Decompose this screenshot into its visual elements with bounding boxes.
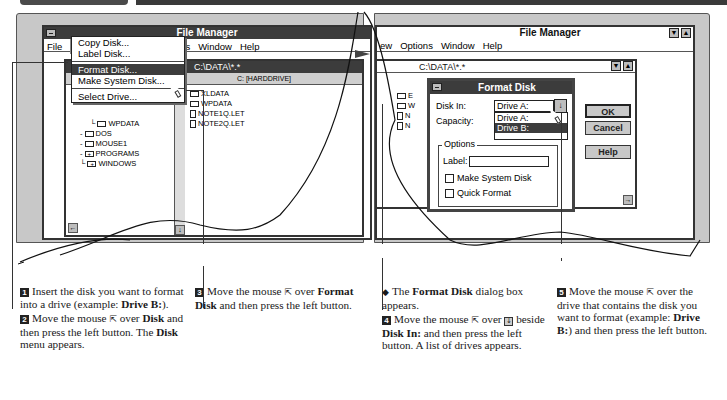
menu-item-select-drive[interactable]: Select Drive... [72, 91, 184, 102]
pointer-icon: ⇱ [646, 287, 654, 297]
disk-in-select[interactable]: Drive A: [494, 100, 554, 112]
menu-separator [72, 61, 184, 62]
tree-item[interactable]: - PROGRAMS [80, 149, 139, 159]
tree-item[interactable]: └ WINDOWS [80, 159, 139, 169]
pointer-icon: ⇱ [109, 314, 117, 324]
minimize-button[interactable]: ▼ [611, 61, 621, 71]
caption-note-step-4: ◆The Format Disk dialog box appears. 4Mo… [382, 285, 552, 354]
maximize-button[interactable]: ▲ [623, 61, 633, 71]
down-arrow-icon: ↓ [559, 101, 563, 110]
folder-plus-icon [85, 151, 94, 157]
step-1-text: 1Insert the disk you want to format into… [20, 285, 185, 310]
system-menu-icon[interactable] [46, 29, 56, 37]
directory-title: C:\DATA\*.* [194, 62, 240, 72]
format-disk-dialog: Format Disk Disk In: Capacity: Drive A: … [427, 78, 575, 212]
options-group: Options Label: Make System Disk Quick Fo… [438, 145, 558, 207]
page-mask [17, 244, 357, 266]
file-item[interactable]: NOTE1Q.LET [190, 109, 245, 119]
menubar: ewOptionsWindowHelp [377, 39, 693, 52]
menu-window[interactable]: Window [198, 40, 232, 53]
caption-step-5: 5Move the mouse ⇱ over the drive that co… [557, 285, 717, 338]
menu-help[interactable]: Help [483, 39, 503, 52]
cancel-button[interactable]: Cancel [585, 121, 631, 135]
file-item[interactable]: N [397, 111, 415, 121]
arrow-right-icon [355, 50, 370, 58]
folder-icon [397, 93, 406, 99]
label-field-label: Label: [443, 156, 468, 166]
folder-icon [85, 141, 94, 147]
header-tab [20, 0, 128, 5]
disk-in-label: Disk In: [436, 101, 466, 111]
help-button[interactable]: Help [585, 145, 631, 159]
folder-icon [190, 91, 199, 97]
maximize-button[interactable]: ▲ [681, 28, 691, 38]
document-icon [190, 120, 196, 128]
dialog-titlebar: Format Disk [430, 81, 572, 94]
file-manager-titlebar: File Manager ▼ ▲ [377, 27, 693, 39]
drive-option-b[interactable]: Drive B: [495, 123, 567, 133]
minimize-button[interactable]: ▼ [669, 28, 679, 38]
menu-item-copy-disk[interactable]: Copy Disk... [72, 37, 184, 48]
scroll-right-button[interactable]: → [623, 195, 633, 205]
menu-window[interactable]: Window [441, 39, 475, 52]
step-2-text: 2Move the mouse ⇱ over Disk and then pre… [20, 312, 185, 351]
quick-format-checkbox[interactable]: Quick Format [445, 188, 511, 198]
disk-menu: Copy Disk... Label Disk... Format Disk..… [71, 36, 185, 103]
folder-icon [190, 101, 199, 107]
file-item[interactable]: NOTE2Q.LET [190, 119, 245, 129]
folder-icon [397, 103, 406, 109]
page-mask [374, 244, 710, 258]
down-arrow-button-icon: ↓ [504, 317, 513, 326]
pointer-icon: ⇱ [284, 287, 292, 297]
window-title: File Manager [519, 27, 580, 38]
file-list: XLDATA WPDATA NOTE1Q.LET NOTE2Q.LET [190, 89, 245, 129]
tree-item[interactable]: └ WPDATA [80, 119, 139, 129]
window-title: File Manager [176, 27, 237, 38]
step-4-text: 4Move the mouse ⇱ over ↓ beside Disk In:… [382, 313, 552, 352]
checkbox-icon [445, 189, 454, 198]
scroll-left-button[interactable]: ← [68, 223, 78, 233]
caption-step-3: 3Move the mouse ⇱ over Format Disk and t… [195, 285, 355, 313]
scroll-down-button[interactable]: ↓ [175, 225, 185, 235]
tree-item[interactable]: - DOS [80, 129, 139, 139]
system-menu-icon[interactable] [432, 83, 442, 91]
note-text: ◆The Format Disk dialog box appears. [382, 285, 552, 311]
menu-file[interactable]: File [47, 40, 62, 53]
callout-line [382, 104, 383, 310]
drive-label[interactable]: C: [HARDDRIVE] [237, 75, 291, 82]
tree-scrollbar[interactable]: ↓ [174, 85, 185, 235]
document-icon [397, 122, 403, 130]
file-item[interactable]: WPDATA [190, 99, 245, 109]
document-icon [190, 110, 196, 118]
document-icon [397, 112, 403, 120]
checkbox-icon [445, 174, 454, 183]
folder-icon [97, 121, 106, 127]
header-band [136, 0, 727, 5]
menu-options[interactable]: Options [400, 39, 433, 52]
dialog-title: Format Disk [478, 82, 536, 93]
directory-titlebar: C:\DATA\*.* ▼ ▲ [375, 61, 635, 73]
menu-item-label-disk[interactable]: Label Disk... [72, 48, 184, 59]
file-item[interactable]: N [397, 121, 415, 131]
make-system-disk-checkbox[interactable]: Make System Disk [445, 173, 532, 183]
callout-line [12, 62, 68, 63]
menu-item-format-disk[interactable]: Format Disk... [72, 64, 184, 75]
ok-button[interactable]: OK [585, 104, 631, 118]
caption-steps-1-2: 1Insert the disk you want to format into… [20, 285, 185, 353]
capacity-label: Capacity: [436, 116, 474, 126]
callout-line [12, 62, 13, 309]
file-item[interactable]: E [397, 91, 415, 101]
callout-line [561, 113, 562, 261]
step-5-text: 5Move the mouse ⇱ over the drive that co… [557, 285, 717, 336]
file-list-partial: E W N N [397, 91, 415, 131]
label-input[interactable] [469, 156, 549, 167]
menu-view[interactable]: ew [380, 39, 392, 52]
file-item[interactable]: W [397, 101, 415, 111]
folder-icon [85, 131, 94, 137]
directory-tree: └ WPDATA - DOS - MOUSE1 - PROGRAMS └ WIN… [80, 119, 139, 169]
tree-item[interactable]: - MOUSE1 [80, 139, 139, 149]
menu-help[interactable]: Help [240, 40, 260, 53]
pointer-icon: ⇱ [471, 315, 479, 325]
step-3-text: 3Move the mouse ⇱ over Format Disk and t… [195, 285, 355, 311]
callout-line [186, 90, 203, 91]
